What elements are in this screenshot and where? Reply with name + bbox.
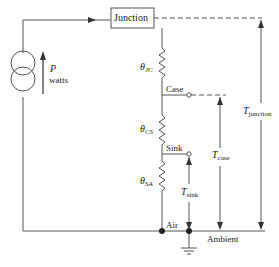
sink-label: Sink — [166, 144, 183, 153]
case-terminal — [187, 93, 191, 97]
source-circle-top — [11, 51, 35, 75]
power-symbol: P — [50, 64, 56, 74]
case-label: Case — [166, 85, 184, 94]
ambient-node — [186, 228, 192, 234]
power-arrow-icon — [40, 51, 46, 60]
theta-sa-label: θSA — [140, 176, 153, 186]
t-sink-label: Tsink — [181, 187, 198, 197]
t-case-label: Tcase — [212, 150, 230, 160]
theta-jc-label: θJC — [140, 62, 153, 72]
air-label: Air — [166, 221, 178, 230]
air-node — [159, 228, 165, 234]
source-circle-bottom — [11, 67, 35, 91]
resistor-jc — [159, 48, 165, 78]
ground-icon — [181, 248, 197, 254]
sink-terminal — [187, 152, 191, 156]
thermal-circuit-diagram: Junction P watts θJC θCS θSA Case Sink A… — [0, 0, 279, 267]
top-wire — [23, 20, 110, 53]
resistor-cs — [159, 115, 165, 145]
bottom-wire — [23, 97, 265, 231]
current-arrow-icon — [88, 17, 96, 23]
theta-cs-label: θCS — [140, 124, 153, 134]
power-unit: watts — [49, 76, 68, 85]
t-junction-label: Tjunction — [243, 106, 272, 116]
junction-label: Junction — [114, 13, 148, 23]
resistor-sa — [159, 161, 165, 191]
ambient-label: Ambient — [207, 235, 239, 244]
